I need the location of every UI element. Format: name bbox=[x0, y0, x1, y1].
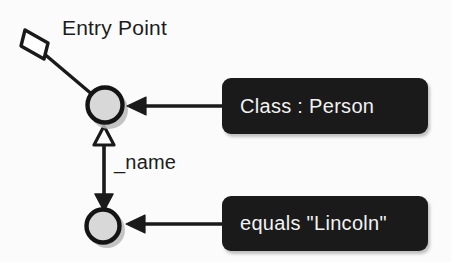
equals-callout-arrowhead-icon bbox=[126, 215, 145, 233]
node-person[interactable] bbox=[88, 88, 123, 123]
class-callout-box[interactable]: Class : Person bbox=[222, 78, 428, 134]
node-name-value[interactable] bbox=[87, 210, 120, 243]
equals-callout-text: equals "Lincoln" bbox=[222, 212, 387, 235]
equals-callout-box[interactable]: equals "Lincoln" bbox=[222, 196, 428, 251]
class-callout-text: Class : Person bbox=[222, 95, 374, 118]
aggregation-diamond-icon bbox=[21, 30, 48, 59]
class-callout-arrowhead-icon bbox=[127, 97, 146, 115]
name-edge-label: _name bbox=[114, 151, 176, 174]
entry-point-connector bbox=[42, 52, 94, 96]
entry-point-label: Entry Point bbox=[62, 16, 167, 40]
diagram-canvas: Entry Point _name Class : Person equals … bbox=[0, 0, 451, 262]
